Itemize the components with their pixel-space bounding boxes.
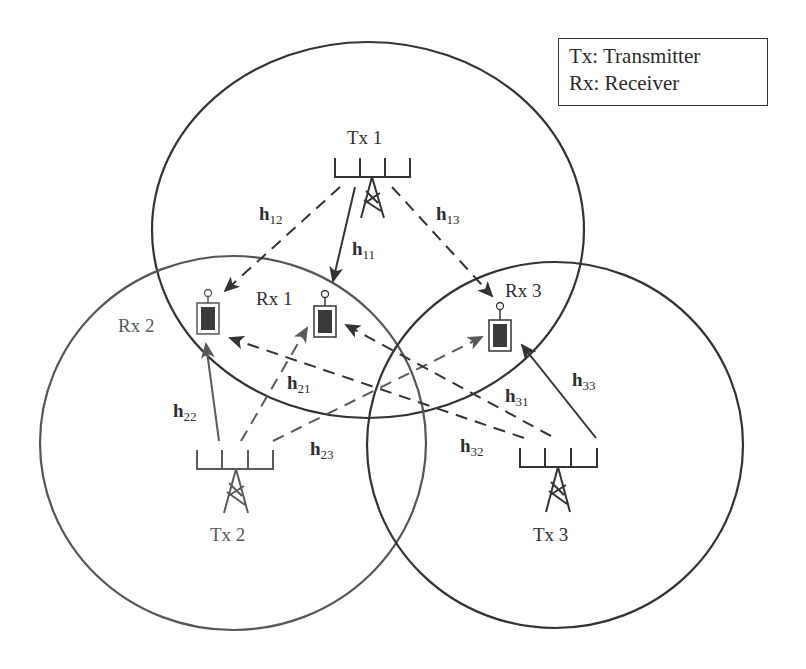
- channel-h11-arrow: [333, 187, 355, 281]
- channel-h22-label: h22: [173, 400, 197, 425]
- channel-h13-label: h13: [436, 203, 460, 228]
- rx1-device-icon: [314, 291, 336, 338]
- channel-h22-arrow: [206, 344, 219, 441]
- channel-h11-label: h11: [352, 238, 375, 263]
- legend-box: Tx: Transmitter Rx: Receiver: [558, 38, 768, 106]
- rx3-device-icon: [489, 303, 511, 352]
- tx2-label: Tx 2: [210, 524, 245, 546]
- channel-h21-label: h21: [287, 372, 311, 397]
- tx1-label: Tx 1: [347, 127, 382, 149]
- tx3-label: Tx 3: [533, 524, 568, 546]
- channel-h31-arrow: [346, 325, 551, 436]
- rx2-device-icon: [197, 290, 219, 335]
- rx3-label: Rx 3: [505, 280, 541, 302]
- coverage-cell-3: [367, 262, 743, 628]
- rx2-label: Rx 2: [118, 315, 154, 337]
- tx1-antenna-icon: [335, 158, 410, 218]
- channel-h23-label: h23: [310, 438, 334, 463]
- coverage-cell-1: [152, 42, 584, 418]
- rx1-label: Rx 1: [256, 288, 292, 310]
- channel-h33-label: h33: [572, 369, 596, 394]
- legend-rx: Rx: Receiver: [569, 70, 767, 97]
- channel-h31-label: h31: [505, 385, 529, 410]
- tx2-antenna-icon: [197, 450, 273, 513]
- legend-tx: Tx: Transmitter: [569, 43, 767, 70]
- tx3-antenna-icon: [520, 448, 597, 512]
- channel-h12-label: h12: [259, 203, 283, 228]
- channel-h32-label: h32: [460, 435, 484, 460]
